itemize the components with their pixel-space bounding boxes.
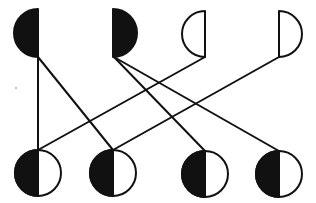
connection-line-p3-o1 [38,57,205,150]
parent-row [14,9,302,57]
split-circle-icon [256,151,302,197]
connection-lines [38,57,279,151]
half-circle-filled-left-half-icon [14,9,38,57]
offspring-row [15,150,302,197]
split-circle-icon [182,151,228,197]
diagram-canvas [0,0,316,203]
connection-line-p2-o3 [114,57,205,151]
split-circle-icon [90,150,136,196]
speck [15,87,17,89]
connection-line-p1-o2 [38,57,113,150]
half-circle-empty-right-half-icon [279,11,302,57]
half-circle-filled-right-half-icon [113,9,137,57]
split-circle-icon [15,150,61,196]
cross-diagram [0,0,316,203]
half-circle-empty-left-half-icon [182,11,205,57]
specks [15,87,17,89]
